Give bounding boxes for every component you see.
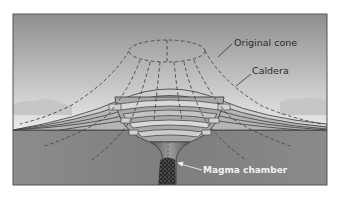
- label-original-cone: Original cone: [234, 38, 297, 48]
- caldera-diagram: [0, 0, 338, 215]
- label-caldera: Caldera: [252, 66, 289, 76]
- distant-hills-right: [280, 98, 327, 115]
- label-magma-chamber: Magma chamber: [203, 166, 287, 175]
